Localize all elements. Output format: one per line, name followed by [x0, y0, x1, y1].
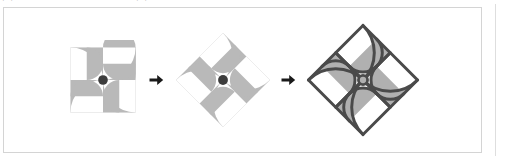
clipped-header-text-strip: 图形的旋转与对称变换示意图: [0, 0, 506, 5]
figure-panel: [3, 7, 482, 153]
clipped-header-text: 图形的旋转与对称变换示意图: [2, 0, 148, 2]
stage2-hub-dot: [218, 75, 228, 85]
transform-arrow-1: [140, 73, 174, 87]
right-column-rule: [495, 4, 496, 156]
stage3-hub-circle: [358, 75, 367, 84]
figure-sequence-row: [4, 8, 481, 152]
stage1-hub-dot: [98, 75, 108, 85]
figure-stage-1-square-pinwheel: [66, 40, 140, 120]
transform-arrow-2: [272, 73, 306, 87]
figure-stage-2-rotated-pinwheel: [174, 28, 272, 132]
figure-stage-3-outlined-pinwheel: [306, 20, 420, 140]
